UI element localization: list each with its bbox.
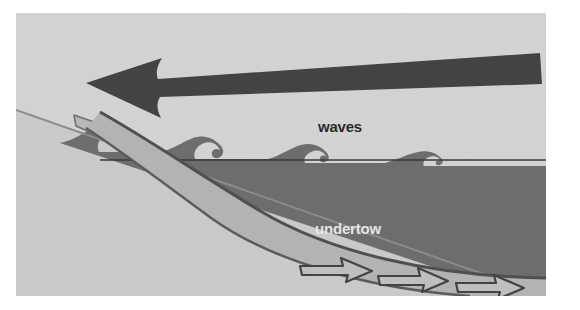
coastal-undertow-diagram: waves undertow xyxy=(0,0,580,310)
figure-root: waves undertow xyxy=(0,0,580,310)
paper-grain-overlay xyxy=(16,13,546,296)
